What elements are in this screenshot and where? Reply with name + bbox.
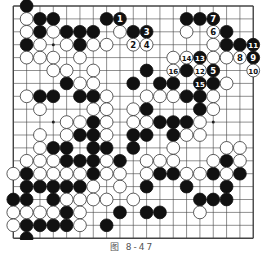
white-stone (47, 51, 60, 64)
white-stone (127, 193, 140, 206)
white-stone (74, 116, 87, 129)
white-stone (74, 219, 87, 232)
black-stone (74, 25, 87, 38)
white-stone (100, 116, 113, 129)
white-stone (220, 167, 233, 180)
black-stone (100, 142, 113, 155)
black-stone (60, 219, 73, 232)
white-stone (167, 154, 180, 167)
white-stone (167, 142, 180, 155)
figure-caption: 图 8-47 (0, 240, 264, 253)
black-stone (34, 13, 47, 26)
white-stone (167, 90, 180, 103)
black-stone (20, 38, 33, 51)
white-stone (47, 167, 60, 180)
black-stone (207, 193, 220, 206)
black-stone (47, 90, 60, 103)
black-stone (180, 64, 193, 77)
white-stone (180, 25, 193, 38)
black-stone (100, 13, 113, 26)
black-stone (154, 77, 167, 90)
white-stone (60, 193, 73, 206)
move-number: 15 (195, 81, 205, 89)
star-point (52, 121, 55, 124)
white-stone (220, 51, 233, 64)
white-stone (74, 77, 87, 90)
white-stone (100, 103, 113, 116)
black-stone (20, 193, 33, 206)
white-stone (34, 51, 47, 64)
black-stone (180, 90, 193, 103)
black-stone (220, 154, 233, 167)
black-stone (194, 193, 207, 206)
white-stone (154, 90, 167, 103)
white-stone (194, 129, 207, 142)
white-stone (100, 129, 113, 142)
white-stone (154, 154, 167, 167)
black-stone (127, 77, 140, 90)
white-stone (74, 51, 87, 64)
white-stone (87, 64, 100, 77)
black-stone (87, 129, 100, 142)
black-stone (34, 90, 47, 103)
black-stone (194, 103, 207, 116)
white-stone (34, 142, 47, 155)
white-stone (234, 154, 247, 167)
move-number: 2 (130, 40, 136, 50)
white-stone (87, 193, 100, 206)
black-stone (34, 25, 47, 38)
white-stone (114, 25, 127, 38)
white-stone (47, 25, 60, 38)
white-stone (167, 51, 180, 64)
move-number: 12 (195, 68, 205, 76)
white-stone (20, 90, 33, 103)
black-stone (60, 154, 73, 167)
move-number: 4 (144, 40, 150, 50)
white-stone (60, 129, 73, 142)
black-stone (87, 142, 100, 155)
white-stone (220, 142, 233, 155)
white-stone (100, 90, 113, 103)
black-stone (127, 129, 140, 142)
white-stone (20, 154, 33, 167)
white-stone (100, 154, 113, 167)
black-stone (60, 25, 73, 38)
move-number: 7 (210, 14, 216, 24)
white-stone (47, 64, 60, 77)
black-stone (74, 154, 87, 167)
black-stone (20, 232, 33, 240)
black-stone (167, 116, 180, 129)
black-stone (234, 38, 247, 51)
black-stone (20, 219, 33, 232)
black-stone (207, 77, 220, 90)
white-stone (87, 77, 100, 90)
white-stone (47, 206, 60, 219)
white-stone (34, 38, 47, 51)
white-stone (7, 167, 20, 180)
black-stone (74, 180, 87, 193)
black-stone (74, 38, 87, 51)
black-stone (20, 167, 33, 180)
black-stone (154, 116, 167, 129)
black-stone (220, 25, 233, 38)
black-stone (127, 25, 140, 38)
white-stone (60, 116, 73, 129)
black-stone (154, 206, 167, 219)
star-point (212, 121, 215, 124)
black-stone (47, 13, 60, 26)
white-stone (127, 116, 140, 129)
white-stone (47, 154, 60, 167)
white-stone (100, 167, 113, 180)
black-stone (194, 13, 207, 26)
black-stone (20, 0, 33, 12)
black-stone (47, 219, 60, 232)
white-stone (194, 167, 207, 180)
black-stone (60, 77, 73, 90)
white-stone (194, 206, 207, 219)
black-stone (20, 180, 33, 193)
black-stone (60, 142, 73, 155)
white-stone (74, 206, 87, 219)
black-stone (140, 180, 153, 193)
white-stone (60, 38, 73, 51)
black-stone (194, 90, 207, 103)
